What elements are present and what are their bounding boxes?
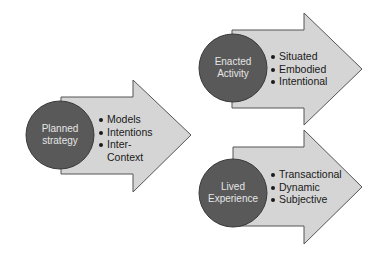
circle-label-lived-experience: Lived Experience xyxy=(199,181,267,205)
bullet-item: Situated xyxy=(271,50,327,63)
circle-label-line: strategy xyxy=(26,135,94,147)
bullet-item: Models xyxy=(99,113,153,126)
bullet-item: Subjective xyxy=(271,193,342,206)
bullet-item-continuation: Context xyxy=(99,151,153,164)
bullet-list-planned-strategy: Models Intentions Inter- Context xyxy=(99,113,153,163)
bullet-item: Transactional xyxy=(271,168,342,181)
bullet-list-lived-experience: Transactional Dynamic Subjective xyxy=(271,168,342,206)
circle-label-line: Experience xyxy=(199,193,267,205)
bullet-item: Embodied xyxy=(271,63,327,76)
circle-label-line: Lived xyxy=(199,181,267,193)
circle-label-planned-strategy: Planned strategy xyxy=(26,123,94,147)
circle-label-enacted-activity: Enacted Activity xyxy=(199,56,267,80)
circle-label-line: Planned xyxy=(26,123,94,135)
bullet-item: Dynamic xyxy=(271,181,342,194)
circle-label-line: Activity xyxy=(199,68,267,80)
circle-label-line: Enacted xyxy=(199,56,267,68)
bullet-item: Intentions xyxy=(99,126,153,139)
bullet-item: Intentional xyxy=(271,75,327,88)
bullet-item: Inter- xyxy=(99,138,153,151)
bullet-list-enacted-activity: Situated Embodied Intentional xyxy=(271,50,327,88)
